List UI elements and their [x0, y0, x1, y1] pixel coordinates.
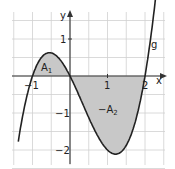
tick-label-x-2: 2 [142, 80, 148, 91]
tick-label-y-neg1: −1 [55, 108, 70, 119]
tick-label-y-neg2: −2 [55, 145, 70, 156]
tick-label-y-1: 1 [60, 34, 66, 45]
y-axis-label: y [60, 10, 66, 21]
function-label: g [151, 39, 157, 50]
y-axis-arrow-icon [67, 10, 73, 17]
tick-label-x-1: 1 [104, 80, 110, 91]
tick-label-x-neg1: −1 [24, 80, 39, 91]
function-graph: y x g −1 1 2 1 −1 −2 A1 −A2 [0, 0, 175, 169]
x-axis-label: x [156, 75, 162, 86]
